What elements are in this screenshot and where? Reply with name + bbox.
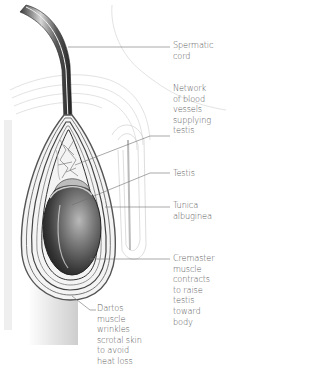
label-tunica-albuginea: Tunica albuginea (173, 200, 212, 221)
adjacent-structure (112, 125, 146, 259)
label-spermatic-cord: Spermatic cord (173, 40, 213, 61)
label-cremaster-muscle: Cremaster muscle contracts to raise test… (173, 253, 214, 327)
label-dartos-muscle: Dartos muscle wrinkles scrotal skin to a… (97, 303, 142, 367)
label-testis: Testis (173, 168, 195, 179)
label-blood-vessels: Network of blood vessels supplying testi… (173, 83, 211, 136)
